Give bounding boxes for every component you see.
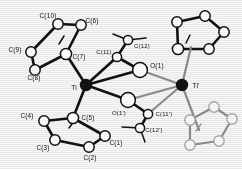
atom-label-c10: C(10) bbox=[40, 13, 57, 19]
atom-label-c12: C(12) bbox=[134, 43, 150, 49]
atom-label-c5: C(5) bbox=[81, 115, 94, 121]
atom-label-c11-prime: C(11') bbox=[156, 111, 173, 117]
atom-label-c8: C(8) bbox=[27, 75, 40, 81]
atom-label-o1-prime: O(1') bbox=[112, 110, 126, 116]
atom-label-c3: C(3) bbox=[36, 145, 49, 151]
atom-label-c9: C(9) bbox=[8, 47, 21, 53]
atom-label-ti-prime: Ti' bbox=[192, 83, 199, 90]
atom-label-ti: Ti bbox=[71, 85, 77, 92]
molecular-structure-figure: .b { stroke:#14110f; stroke-width:2.6; s… bbox=[0, 0, 242, 169]
atom-label-c1: C(1) bbox=[109, 140, 122, 146]
atom-ti-prime bbox=[176, 79, 187, 90]
atom-label-c12-prime: C(12') bbox=[145, 127, 162, 133]
atom-label-c2: C(2) bbox=[83, 155, 96, 161]
atom-label-c4: C(4) bbox=[20, 113, 33, 119]
atom-ti bbox=[80, 79, 91, 90]
atom-label-c6: C(6) bbox=[85, 18, 98, 24]
atom-label-c7: C(7) bbox=[72, 54, 85, 60]
atom-label-c11: C(11) bbox=[96, 49, 112, 55]
atom-label-o1: O(1) bbox=[150, 63, 164, 69]
